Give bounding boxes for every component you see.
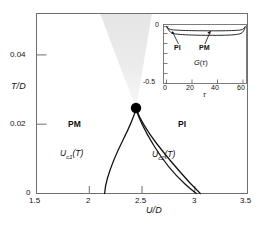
inset-y-tick-0: 0 xyxy=(155,21,159,28)
inset-gtau-label: G(τ) xyxy=(194,58,208,67)
curve-label-uc2: Uc2(T) xyxy=(152,149,175,161)
inset-x-tick-0: 0 xyxy=(163,84,167,91)
x-tick-label-3: 3 xyxy=(192,196,196,205)
critical-point-marker xyxy=(131,103,141,113)
y-axis-ticks xyxy=(37,55,47,194)
y-tick-label-002: 0.02 xyxy=(10,119,26,128)
inset-frame xyxy=(164,25,247,84)
inset-x-tick-40: 40 xyxy=(211,84,219,91)
inset-x-tick-20: 20 xyxy=(186,84,194,91)
x-axis-ticks xyxy=(37,186,248,194)
inset-x-tick-60: 60 xyxy=(237,84,245,91)
region-label-pm: PM xyxy=(68,119,81,129)
phase-diagram-svg xyxy=(0,0,264,226)
x-tick-label-15: 1.5 xyxy=(29,196,40,205)
curve-uc1 xyxy=(105,109,136,194)
curve-label-uc1: Uc1(T) xyxy=(60,148,83,160)
inset-plot xyxy=(164,25,247,84)
inset-y-tick-neg05: -0.5 xyxy=(143,78,155,85)
critical-fan-region xyxy=(100,13,152,109)
x-tick-label-35: 3.5 xyxy=(240,196,251,205)
x-axis-title: U/D xyxy=(146,205,162,215)
y-axis-title: T/D xyxy=(11,81,26,91)
x-tick-label-2: 2 xyxy=(86,196,90,205)
inset-label-pm: PM xyxy=(199,44,210,51)
inset-label-pi: PI xyxy=(174,44,181,51)
phase-diagram-figure: 0.04 0.02 0 T/D 1.5 2 2.5 3 3.5 U/D PM P… xyxy=(0,0,264,226)
y-tick-label-004: 0.04 xyxy=(10,50,26,59)
x-tick-label-25: 2.5 xyxy=(135,196,146,205)
inset-x-axis-title: τ xyxy=(203,91,206,98)
region-label-pi: PI xyxy=(178,119,186,129)
